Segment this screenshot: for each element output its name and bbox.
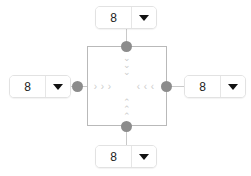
chevron-down-icon [228,84,238,90]
chevron-down-icon [139,15,149,21]
unit-dropdown-right[interactable] [221,76,245,97]
spacing-input-left[interactable]: 8 [10,76,45,97]
spacing-input-right[interactable]: 8 [185,76,220,97]
unit-dropdown-top[interactable] [132,7,156,28]
spacing-field-top[interactable]: 8 [95,6,157,29]
unit-dropdown-bottom[interactable] [132,146,156,167]
chevron-down-icon [53,84,63,90]
spacing-editor-widget: ⌄ ⌄ ⌄ ⌃ ⌃ ⌃ › › › ‹ ‹ ‹ 8 8 8 [0,0,251,176]
spacing-field-left[interactable]: 8 [9,75,71,98]
spacing-field-bottom[interactable]: 8 [95,145,157,168]
unit-dropdown-left[interactable] [46,76,70,97]
drag-handle-right[interactable] [161,81,172,92]
content-box-preview [87,46,167,126]
spacing-input-top[interactable]: 8 [96,7,131,28]
drag-handle-top[interactable] [121,41,132,52]
drag-handle-bottom[interactable] [121,121,132,132]
chevron-down-icon [139,154,149,160]
spacing-input-bottom[interactable]: 8 [96,146,131,167]
drag-handle-left[interactable] [72,81,83,92]
spacing-field-right[interactable]: 8 [184,75,246,98]
